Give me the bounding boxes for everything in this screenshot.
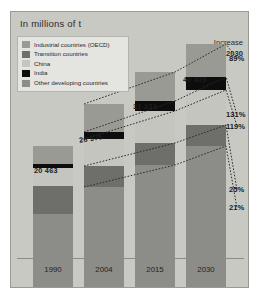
bar-segment-other-developing: [33, 214, 73, 288]
bar-segment-transition: [135, 143, 175, 165]
chart-figure: In millions of t Increase 2004–2030: [10, 11, 249, 288]
bar-value-2030: 40 420: [183, 75, 207, 84]
percent-other-developing: 21%: [229, 203, 244, 212]
x-tick-1990: 1990: [33, 265, 73, 274]
legend-item-india: India: [22, 69, 125, 79]
legend-swatch-icon: [22, 80, 30, 87]
legend-label: Transition countries: [34, 51, 88, 57]
legend-swatch-icon: [22, 41, 30, 48]
legend-swatch-icon: [22, 60, 30, 67]
legend-swatch-icon: [22, 70, 30, 77]
legend-item-oecd: Industrial countries (OECD): [22, 40, 125, 50]
legend-label: Other developing countries: [34, 80, 108, 86]
bar-segment-oecd: [84, 104, 124, 132]
legend-label: China: [34, 61, 50, 67]
percent-india: 131%: [226, 110, 245, 119]
bar-value-2015: 33 333: [133, 102, 157, 111]
percent-oecd: 89%: [229, 54, 244, 63]
bar-segment-china: [186, 90, 226, 125]
bar-segment-oecd: [186, 44, 226, 77]
legend-label: India: [34, 70, 47, 76]
bar-segment-transition: [84, 166, 124, 187]
legend: Industrial countries (OECD) Transition c…: [17, 36, 129, 92]
bar-2030: [186, 67, 226, 288]
bar-2004: [84, 67, 124, 288]
x-tick-2030: 2030: [186, 265, 226, 274]
bar-segment-oecd: [33, 146, 73, 164]
bar-1990: [33, 67, 73, 288]
percent-transition: 25%: [229, 185, 244, 194]
legend-swatch-icon: [22, 51, 30, 58]
bar-segment-transition: [33, 186, 73, 214]
bar-segment-china: [135, 111, 175, 143]
legend-item-transition: Transition countries: [22, 50, 125, 60]
bar-segment-transition: [186, 125, 226, 146]
legend-label: Industrial countries (OECD): [34, 42, 110, 48]
legend-item-china: China: [22, 59, 125, 69]
percent-china: 119%: [226, 122, 245, 131]
bar-value-1990: 20 463: [34, 166, 58, 175]
bar-segment-oecd: [135, 72, 175, 101]
bar-2015: [135, 67, 175, 288]
x-tick-2004: 2004: [84, 265, 124, 274]
legend-item-other-developing: Other developing countries: [22, 78, 125, 88]
x-tick-2015: 2015: [135, 265, 175, 274]
x-axis-line: [17, 258, 244, 259]
